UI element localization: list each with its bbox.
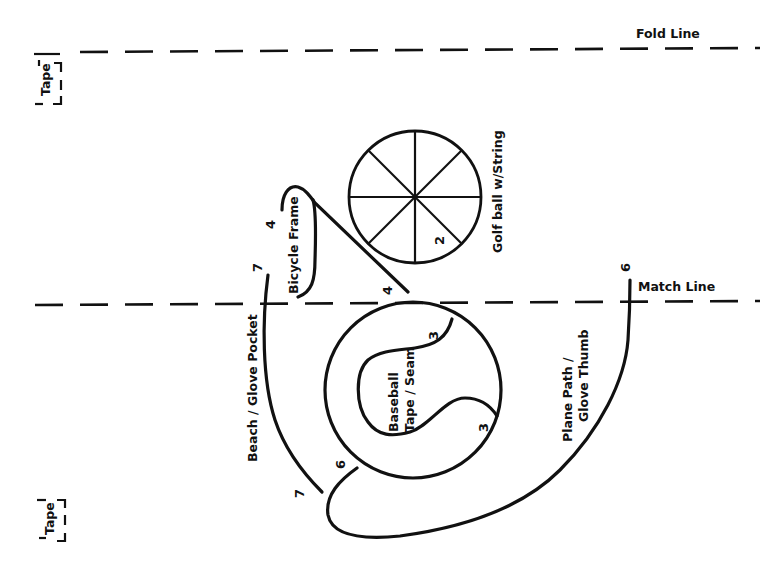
bicycle-step-bottom: 4 — [380, 286, 395, 295]
beach-step-bottom: 7 — [292, 489, 307, 498]
bicycle-step-top: 4 — [263, 220, 278, 229]
plane-path-label-line1: Plane Path / — [560, 357, 575, 442]
golf-ball-shape: 2 Golf ball w/String — [349, 130, 505, 263]
beach-glove-pocket-shape: Beach / Glove Pocket 7 7 — [245, 263, 322, 498]
baseball-shape: Baseball Tape / Seam 3 3 — [325, 302, 501, 478]
fold-line — [80, 48, 760, 52]
fold-line-label: Fold Line — [636, 26, 700, 41]
tape-bottom-label: Tape — [42, 502, 57, 535]
tape-marker-top: Tape — [34, 54, 61, 104]
plane-step-top: 6 — [618, 263, 633, 272]
match-line-label: Match Line — [638, 279, 715, 294]
plane-path-label-line2: Glove Thumb — [576, 330, 591, 422]
baseball-label-line1: Baseball — [386, 372, 401, 432]
golf-ball-label: Golf ball w/String — [490, 130, 505, 253]
beach-glove-pocket-label: Beach / Glove Pocket — [245, 314, 260, 462]
beach-step-top: 7 — [250, 263, 265, 272]
baseball-label-line2: Tape / Seam — [402, 347, 417, 432]
tracing-diagram: Fold Line Match Line Tape Tape Bicycle F… — [0, 0, 781, 573]
bicycle-frame-label: Bicycle Frame — [286, 196, 301, 294]
tape-marker-bottom: Tape — [37, 500, 65, 541]
bicycle-frame-shape: Bicycle Frame 4 4 — [263, 187, 408, 297]
tape-top-label: Tape — [38, 63, 53, 96]
golf-ball-step: 2 — [432, 236, 447, 245]
plane-step-bottom: 6 — [333, 460, 348, 469]
baseball-step-top: 3 — [426, 331, 441, 340]
baseball-step-bottom: 3 — [476, 423, 491, 432]
